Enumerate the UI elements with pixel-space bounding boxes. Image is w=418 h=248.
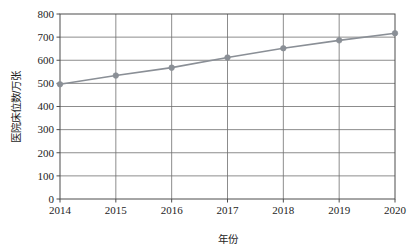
chart-canvas: 0100200300400500600700800 20142015201620…: [0, 0, 418, 248]
x-tick-label-2019: 2019: [328, 204, 351, 216]
y-tick-label-700: 700: [38, 31, 55, 43]
y-tick-label-0: 0: [49, 193, 55, 205]
y-tick-label-100: 100: [38, 170, 55, 182]
y-tick-label-500: 500: [38, 77, 55, 89]
x-tick-label-2016: 2016: [161, 204, 184, 216]
y-axis-ticks: 0100200300400500600700800: [38, 8, 61, 205]
x-tick-label-2018: 2018: [272, 204, 295, 216]
data-point-2016: [169, 65, 175, 71]
x-axis-title: 年份: [218, 233, 239, 245]
y-tick-label-300: 300: [38, 123, 55, 135]
x-tick-label-2014: 2014: [49, 204, 72, 216]
x-tick-label-2020: 2020: [384, 204, 407, 216]
x-tick-label-2015: 2015: [105, 204, 128, 216]
data-point-2017: [225, 55, 231, 61]
data-point-2015: [113, 73, 119, 79]
x-tick-label-2017: 2017: [217, 204, 240, 216]
x-axis-ticks: 2014201520162017201820192020: [49, 199, 407, 216]
data-point-2019: [336, 38, 342, 44]
y-tick-label-800: 800: [38, 8, 55, 20]
y-axis-title: 医院床位数/万张: [10, 70, 22, 144]
y-tick-label-400: 400: [38, 100, 55, 112]
data-point-2020: [392, 30, 398, 36]
data-point-2018: [281, 45, 287, 51]
y-tick-label-200: 200: [38, 147, 55, 159]
y-tick-label-600: 600: [38, 54, 55, 66]
data-point-2014: [57, 82, 63, 88]
line-chart-figure: 0100200300400500600700800 20142015201620…: [0, 0, 418, 248]
